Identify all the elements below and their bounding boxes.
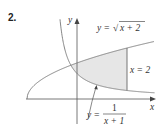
x-axis-arrow-icon [150, 97, 156, 102]
x-axis-label: x [149, 102, 155, 112]
upper-label-prefix: y = [96, 23, 110, 33]
upper-label-radicand: x + 2 [119, 23, 140, 33]
problem-number: 2. [8, 12, 17, 23]
shaded-region [71, 48, 127, 91]
boundary-label: x = 2 [129, 65, 150, 75]
diagram: 2. x y y = √ x + 2 x = 2 y = 1 x + 1 [0, 0, 162, 134]
lower-curve-label: y = 1 x + 1 [86, 85, 126, 126]
y-axis-label: y [67, 15, 73, 25]
y-axis-arrow-icon [75, 18, 80, 24]
pointer-arrow-icon [94, 85, 98, 89]
lower-label-denominator: x + 1 [103, 116, 124, 126]
lower-label-numerator: 1 [112, 103, 117, 113]
upper-curve-label: y = √ x + 2 [96, 22, 145, 34]
lower-label-prefix: y = [86, 110, 100, 120]
svg-text:y =: y = [96, 23, 110, 33]
radical-sign: √ [113, 23, 119, 33]
